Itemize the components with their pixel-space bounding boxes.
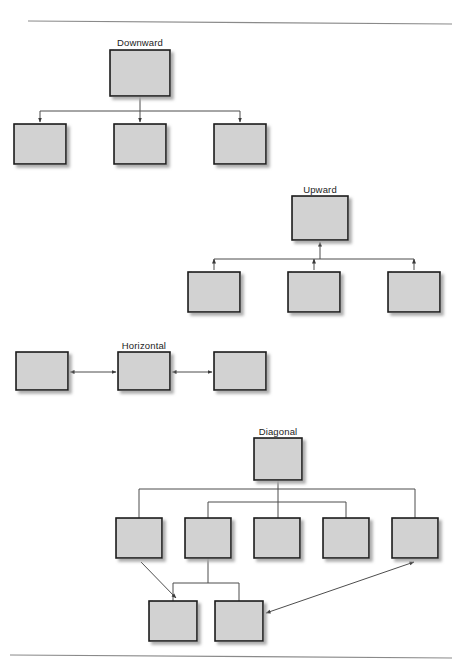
diagonal-child-box-1[interactable] [116,518,162,558]
page-rules [10,21,452,658]
label-upward: Upward [303,184,337,195]
diagonal-child-box-4[interactable] [323,518,369,558]
diagonal-arrow-grandchild2-child5 [266,562,414,613]
label-downward: Downward [117,37,163,48]
diagonal-grandchild-box-2[interactable] [215,601,263,641]
diagonal-parent-box[interactable] [254,438,302,480]
top-rule [28,21,452,24]
upward-child-box-3[interactable] [388,272,440,312]
diagonal-grandchild-box-1[interactable] [149,601,197,641]
downward-child-box-3[interactable] [214,124,266,164]
upward-parent-box[interactable] [292,196,348,240]
horizontal-box-2[interactable] [118,352,170,390]
label-horizontal: Horizontal [122,340,166,351]
bottom-rule [10,655,452,658]
label-diagonal: Diagonal [259,426,298,437]
downward-child-box-1[interactable] [14,124,66,164]
upward-child-box-2[interactable] [288,272,340,312]
diagonal-child-box-3[interactable] [254,518,300,558]
section-downward [14,50,266,164]
section-diagonal [116,438,438,641]
diagonal-child-box-5[interactable] [392,518,438,558]
downward-parent-box[interactable] [110,50,170,96]
figure-page: Downward Upward Horizontal Diagonal [0,0,460,669]
diagram-canvas [0,0,460,669]
upward-connectors [214,242,414,270]
section-upward [188,196,440,312]
downward-child-box-2[interactable] [114,124,166,164]
diagonal-arrow-child1-grandchild1 [141,562,176,598]
diagonal-child-box-2[interactable] [185,518,231,558]
downward-connectors [40,96,240,122]
section-horizontal [16,352,266,390]
horizontal-box-1[interactable] [16,352,68,390]
horizontal-box-3[interactable] [214,352,266,390]
upward-child-box-1[interactable] [188,272,240,312]
